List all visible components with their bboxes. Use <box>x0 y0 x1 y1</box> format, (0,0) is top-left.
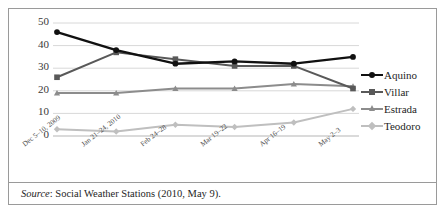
data-point <box>350 86 356 92</box>
legend-item-aquino[interactable]: Aquino <box>361 66 437 83</box>
source-note: Source: Social Weather Stations (2010, M… <box>21 188 221 199</box>
series-line <box>57 84 353 93</box>
legend-marker-icon <box>361 103 383 115</box>
legend-item-estrada[interactable]: Estrada <box>361 100 437 117</box>
source-citation: : Social Weather Stations (2010, May 9). <box>50 188 221 199</box>
legend-label: Villar <box>384 86 409 98</box>
y-axis-tick-label: 30 <box>27 60 49 72</box>
series-line <box>57 52 353 88</box>
data-point <box>54 74 60 80</box>
data-point <box>173 61 179 67</box>
legend-marker-icon <box>361 86 383 98</box>
data-point <box>113 128 119 134</box>
legend-marker-icon <box>361 120 383 132</box>
data-point <box>291 119 297 125</box>
chart-legend: AquinoVillarEstradaTeodoro <box>361 66 437 134</box>
y-axis-tick-label: 20 <box>27 83 49 95</box>
data-point <box>232 59 238 65</box>
source-divider <box>9 182 436 183</box>
legend-label: Estrada <box>384 103 417 115</box>
legend-label: Teodoro <box>384 120 421 132</box>
data-point <box>231 124 237 130</box>
data-point <box>350 54 356 60</box>
data-point <box>291 61 297 67</box>
legend-marker-icon <box>361 69 383 81</box>
data-point <box>54 126 60 132</box>
series-aquino <box>54 29 356 66</box>
data-point <box>113 47 119 53</box>
legend-item-teodoro[interactable]: Teodoro <box>361 117 437 134</box>
data-point <box>54 29 60 35</box>
y-axis-tick-label: 40 <box>27 38 49 50</box>
series-estrada <box>54 81 356 96</box>
source-label: Source <box>21 188 50 199</box>
legend-item-villar[interactable]: Villar <box>361 83 437 100</box>
legend-label: Aquino <box>384 69 417 81</box>
y-axis-tick-label: 50 <box>27 15 49 27</box>
data-point <box>350 106 356 112</box>
y-axis-tick-label: 10 <box>27 105 49 117</box>
chart-figure: 50403020100Dec 5–10, 2009Jan 21–24, 2010… <box>8 8 437 205</box>
data-point <box>172 122 178 128</box>
